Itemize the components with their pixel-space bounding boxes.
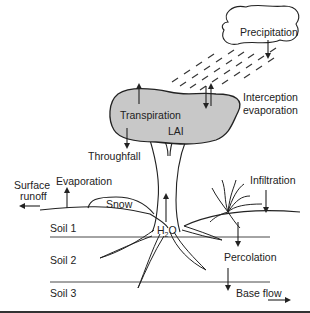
- base-flow-label: Base flow: [236, 287, 282, 299]
- surface-runoff-label-2: runoff: [20, 190, 47, 202]
- evaporation-label: Evaporation: [56, 175, 112, 187]
- soil1-label: Soil 1: [50, 222, 76, 234]
- lai-label: LAI: [168, 125, 184, 137]
- infiltration-label: Infiltration: [250, 174, 296, 186]
- ground-right: [184, 211, 300, 226]
- interception-label-2: evaporation: [243, 104, 298, 116]
- transpiration-label: Transpiration: [120, 109, 181, 121]
- throughfall-label: Throughfall: [88, 150, 141, 162]
- snow-label: Snow: [106, 198, 133, 210]
- soil2-label: Soil 2: [50, 254, 76, 266]
- percolation-label: Percolation: [224, 251, 277, 263]
- precipitation-label: Precipitation: [240, 26, 298, 38]
- interception-label: Interception: [243, 91, 298, 103]
- root-cluster: [210, 180, 262, 228]
- soil3-label: Soil 3: [50, 287, 76, 299]
- cloud-icon: [222, 5, 298, 44]
- rain-dashes: [172, 48, 276, 90]
- hydrology-diagram: Precipitation Transpiration LAI Intercep…: [0, 0, 310, 313]
